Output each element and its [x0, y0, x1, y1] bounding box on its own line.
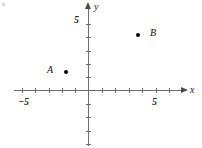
corner-artifact-mark [2, 3, 5, 6]
y-tick-label-5: 5 [74, 15, 79, 25]
y-tick--3 [86, 131, 91, 132]
y-tick-3 [86, 51, 91, 52]
y-tick-4 [86, 37, 91, 38]
point-b-marker [136, 33, 140, 37]
y-tick-1 [86, 77, 91, 78]
x-tick-2 [115, 88, 116, 93]
y-tick-5 [86, 24, 91, 25]
x-tick-5 [156, 88, 157, 93]
x-tick--1 [75, 88, 76, 93]
x-tick-6 [169, 88, 170, 93]
x-axis-arrow-icon [181, 87, 188, 93]
y-tick--2 [86, 117, 91, 118]
x-axis-label: x [190, 85, 194, 95]
x-tick-label-negative-5: −5 [18, 97, 29, 107]
y-tick--1 [86, 104, 91, 105]
x-tick--5 [22, 88, 23, 93]
coordinate-plane-figure: x y −5 5 5 A B [0, 0, 202, 148]
y-tick-2 [86, 64, 91, 65]
x-tick--4 [35, 88, 36, 93]
y-tick--4 [86, 144, 91, 145]
point-b-label: B [150, 28, 156, 38]
y-axis-arrow-icon [85, 2, 91, 9]
x-tick-4 [142, 88, 143, 93]
x-tick-1 [102, 88, 103, 93]
x-tick-label-positive-5: 5 [152, 97, 157, 107]
x-tick-3 [129, 88, 130, 93]
point-a-label: A [47, 65, 53, 75]
x-tick--2 [62, 88, 63, 93]
x-tick--3 [49, 88, 50, 93]
y-axis-label: y [94, 2, 98, 12]
point-a-marker [64, 70, 68, 74]
